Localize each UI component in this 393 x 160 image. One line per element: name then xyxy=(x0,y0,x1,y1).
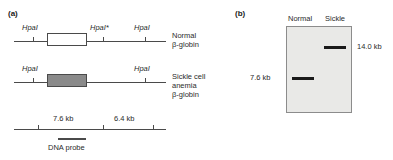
band-normal-7-6kb xyxy=(292,77,314,80)
normal-gene-name-line2: β-globin xyxy=(172,40,199,49)
panel-b-label: (b) xyxy=(235,9,245,18)
lane-header-sickle: Sickle xyxy=(325,14,345,23)
band-label-7-6kb: 7.6 kb xyxy=(250,73,270,82)
normal-site-label-right: HpaI xyxy=(134,23,150,32)
figure-root: (a) HpaI HpaI* HpaI Normal β-globin HpaI… xyxy=(0,0,393,160)
sickle-gene-name-line3: β-globin xyxy=(172,90,199,99)
normal-site-label-left: HpaI xyxy=(22,23,38,32)
normal-gene-box xyxy=(47,33,87,46)
panel-a-label: (a) xyxy=(8,9,18,18)
band-sickle-14kb xyxy=(324,46,346,49)
sickle-gene-box xyxy=(47,74,87,87)
sickle-gene-name-line1: Sickle cell xyxy=(172,72,205,81)
distance-label-7-6kb: 7.6 kb xyxy=(53,114,73,123)
ruler-line xyxy=(14,129,166,130)
normal-map-tick-right xyxy=(145,37,146,42)
normal-map-tick-middle xyxy=(103,37,104,42)
band-label-14kb: 14.0 kb xyxy=(357,42,382,51)
normal-site-label-middle: HpaI* xyxy=(90,23,109,32)
southern-blot-gel xyxy=(286,26,352,113)
sickle-map-tick-right xyxy=(145,78,146,83)
normal-map-tick-left xyxy=(33,37,34,42)
sickle-gene-name-line2: anemia xyxy=(172,81,197,90)
normal-gene-name-line1: Normal xyxy=(172,31,196,40)
sickle-site-label-left: HpaI xyxy=(22,64,38,73)
lane-header-normal: Normal xyxy=(288,14,312,23)
ruler-tick-middle xyxy=(103,125,104,130)
normal-map-line xyxy=(14,41,166,42)
distance-label-6-4kb: 6.4 kb xyxy=(114,114,134,123)
dna-probe-label: DNA probe xyxy=(48,143,85,152)
sickle-site-label-right: HpaI xyxy=(134,64,150,73)
ruler-tick-right xyxy=(153,125,154,130)
sickle-map-tick-left xyxy=(33,78,34,83)
sickle-map-line xyxy=(14,82,166,83)
ruler-tick-left xyxy=(38,125,39,130)
dna-probe-bar xyxy=(58,138,86,140)
